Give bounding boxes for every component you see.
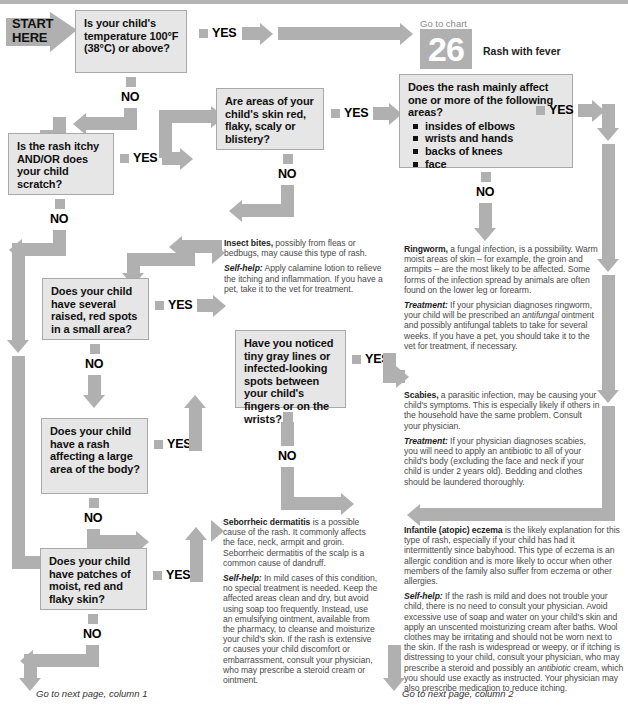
no-label-q6: NO bbox=[278, 449, 296, 463]
right-rail-head-2 bbox=[597, 259, 619, 272]
treatment-label: Treatment: bbox=[404, 436, 448, 446]
yes-stub-q1 bbox=[199, 29, 208, 38]
no-path-q4-vert bbox=[479, 203, 492, 228]
yes-head-q2 bbox=[180, 148, 193, 170]
advice-infantile-eczema: Infantile (atopic) eczema is the likely … bbox=[404, 525, 624, 693]
question-text: Does the rash mainly affect one or more … bbox=[408, 81, 553, 118]
no-path-q2-horz bbox=[22, 243, 66, 256]
rash-areas-list: insides of elbows wrists and hands backs… bbox=[411, 120, 565, 170]
yes-stub-q3 bbox=[331, 109, 340, 118]
yes-arrow-tail-q1 bbox=[242, 27, 260, 40]
no-label-q5: NO bbox=[85, 357, 103, 371]
no-path-q1-horz bbox=[86, 117, 137, 130]
no-stub-q4 bbox=[481, 172, 491, 182]
question-box-skin-red-flaky[interactable]: Are areas of your child's skin red, flak… bbox=[216, 88, 324, 150]
advice-title: Insect bites, bbox=[224, 238, 273, 248]
question-box-gray-lines[interactable]: Have you noticed tiny gray lines or infe… bbox=[235, 330, 346, 408]
no-path-q3-horz bbox=[242, 204, 294, 217]
no-label-q4: NO bbox=[476, 185, 494, 199]
rash-area-item: insides of elbows bbox=[411, 120, 565, 133]
yes-stub-q7 bbox=[154, 440, 163, 449]
start-here-label-line2: HERE bbox=[12, 31, 47, 45]
yes-label-q8: YES bbox=[166, 568, 190, 582]
question-text: Does your child have a rash affecting a … bbox=[50, 425, 140, 475]
yes-path-q8-head bbox=[185, 527, 207, 540]
connector-q1-to-chart26 bbox=[278, 27, 400, 40]
right-rail-head-3 bbox=[597, 390, 619, 403]
no-stub-q6 bbox=[283, 412, 293, 422]
rash-area-item: backs of knees bbox=[411, 145, 565, 158]
no-stub-q8 bbox=[88, 614, 98, 624]
treatment-label: Treatment: bbox=[404, 300, 448, 310]
left-rail-upper bbox=[12, 243, 25, 340]
question-box-itchy[interactable]: Is the rash itchy AND/OR does your child… bbox=[8, 133, 114, 195]
question-text: Is your child's temperature 100°F (38°C)… bbox=[84, 17, 178, 54]
no-path-q1-head bbox=[73, 113, 86, 135]
no-stub-q5 bbox=[90, 344, 100, 354]
advice-scabies: Scabies, a parasitic infection, may be c… bbox=[404, 390, 600, 487]
no-path-q7-horz bbox=[87, 535, 136, 548]
yes-label-q4: YES bbox=[549, 103, 573, 117]
left-rail-lower bbox=[12, 356, 25, 556]
connector-head-chart26 bbox=[400, 23, 413, 45]
question-text: Are areas of your child's skin red, flak… bbox=[225, 95, 314, 145]
advice-title: Infantile (atopic) eczema bbox=[404, 525, 503, 535]
yes-arrow-head-q1 bbox=[260, 23, 273, 45]
advice-insect-bites: Insect bites, possibly from fleas or bed… bbox=[224, 238, 390, 294]
question-box-temperature[interactable]: Is your child's temperature 100°F (38°C)… bbox=[75, 10, 187, 73]
treatment-emphasis: antifungal bbox=[522, 310, 559, 320]
selfhelp-label: Self-help: bbox=[404, 591, 443, 601]
no-stub-q7 bbox=[89, 498, 99, 508]
no-label-q2: NO bbox=[50, 212, 68, 226]
no-label-q8: NO bbox=[83, 627, 101, 641]
yes-tail-q4 bbox=[578, 104, 592, 117]
chart-26-badge[interactable]: 26 bbox=[420, 29, 472, 69]
flowchart-canvas: START HERE Is your child's temperature 1… bbox=[0, 0, 628, 712]
no-path-q4-head bbox=[474, 228, 496, 241]
yes-path-q8-corner bbox=[190, 569, 203, 582]
question-text: Does your child have patches of moist, r… bbox=[49, 555, 131, 605]
seborrheic-pointer bbox=[211, 520, 224, 542]
no-path-q6-head bbox=[341, 493, 354, 515]
yes-head-q5 bbox=[213, 295, 226, 317]
no-label-q1: NO bbox=[121, 90, 139, 104]
right-rail-to-eczema-head bbox=[407, 504, 420, 526]
right-rail-corner bbox=[602, 104, 615, 128]
advice-ringworm: Ringworm, a fungal infection, is a possi… bbox=[404, 244, 600, 351]
no-path-q6-horz bbox=[281, 497, 341, 510]
footer-right[interactable]: Go to next page, column 2 bbox=[402, 688, 513, 699]
yes-label-q5: YES bbox=[168, 298, 192, 312]
selfhelp-body-1: If the rash is mild and does not trouble… bbox=[404, 591, 620, 672]
question-box-moist-flaky-patches[interactable]: Does your child have patches of moist, r… bbox=[40, 548, 147, 610]
insect-bites-pointer bbox=[212, 242, 225, 264]
goto-chart-caption: Go to chart bbox=[420, 18, 467, 29]
no-path-q5-vert bbox=[88, 375, 101, 395]
yes-stub-q5 bbox=[155, 301, 164, 310]
chart-26-title: Rash with fever bbox=[483, 45, 561, 57]
question-box-large-area[interactable]: Does your child have a rash affecting a … bbox=[41, 418, 148, 494]
yes-stub-q6 bbox=[352, 355, 361, 364]
right-rail-seg-2 bbox=[602, 275, 615, 390]
question-box-raised-red-spots[interactable]: Does your child have several raised, red… bbox=[42, 278, 149, 340]
left-rail-upper-head bbox=[7, 340, 29, 353]
footer-left[interactable]: Go to next page, column 1 bbox=[36, 688, 147, 699]
rash-area-item: face bbox=[411, 158, 565, 171]
advice-title: Scabies, bbox=[404, 390, 438, 400]
advice-title: Seborrheic dermatitis bbox=[223, 517, 310, 527]
question-box-rash-areas[interactable]: Does the rash mainly affect one or more … bbox=[399, 74, 573, 168]
no-stub-q2 bbox=[55, 199, 65, 209]
path-to-q5-top-head bbox=[169, 236, 182, 258]
selfhelp-emphasis: antibiotic bbox=[537, 663, 570, 673]
no-path-q6-vert bbox=[281, 422, 294, 446]
no-path-q8-drop bbox=[24, 654, 37, 678]
yes-tail-q3 bbox=[373, 107, 389, 120]
yes-label-q7: YES bbox=[167, 437, 191, 451]
right-rail-to-eczema bbox=[420, 508, 615, 521]
top-rule bbox=[0, 0, 628, 4]
right-rail-head-1 bbox=[597, 128, 619, 141]
yes-stub-q4 bbox=[536, 106, 545, 115]
advice-title: Ringworm, bbox=[404, 244, 448, 254]
start-here-label-line1: START bbox=[12, 17, 53, 31]
yes-stub-q8 bbox=[153, 571, 162, 580]
rash-area-item: wrists and hands bbox=[411, 132, 565, 145]
